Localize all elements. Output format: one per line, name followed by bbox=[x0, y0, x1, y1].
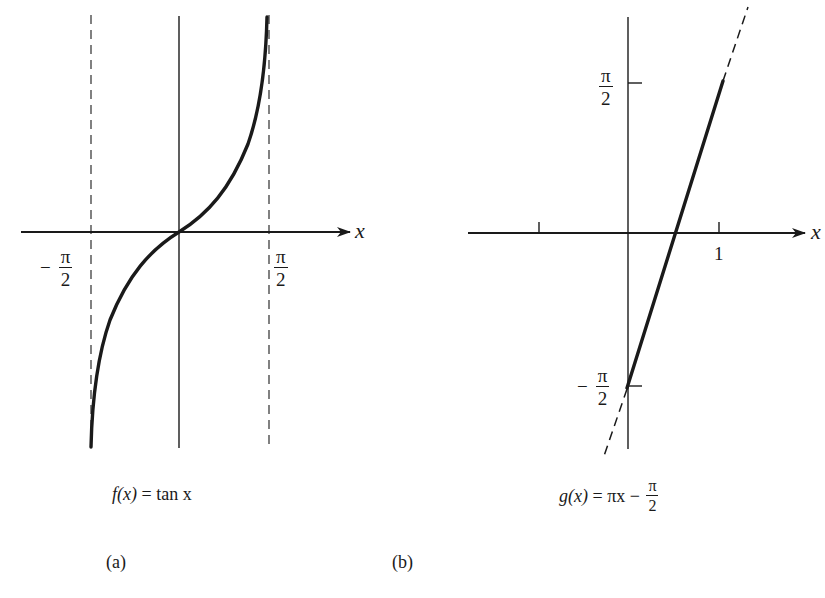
caption-equals: = bbox=[588, 486, 607, 507]
fraction-denominator: 2 bbox=[601, 87, 611, 108]
fraction-denominator: 2 bbox=[61, 268, 71, 289]
fraction-numerator: π bbox=[274, 247, 288, 268]
fraction-numerator: π bbox=[596, 366, 610, 387]
panel-b-line-dashed-upper bbox=[723, 7, 748, 81]
panel-b-tick-label-y-neg-half-pi: −π2 bbox=[577, 366, 609, 408]
fraction-pi-over-2: π2 bbox=[59, 247, 73, 289]
figure-canvas bbox=[0, 0, 825, 598]
panel-b-tick-label-y-pos-half-pi: π2 bbox=[599, 66, 613, 108]
caption-equals: = bbox=[137, 484, 156, 504]
caption-rhs: tan x bbox=[156, 484, 192, 504]
caption-lhs: f(x) bbox=[112, 484, 137, 504]
panel-a-graph bbox=[21, 15, 350, 448]
panel-a-caption: f(x) = tan x bbox=[112, 484, 192, 505]
panel-b-tag: (b) bbox=[392, 552, 413, 573]
fraction-pi-over-2: π2 bbox=[646, 478, 658, 514]
panel-b-tick-label-x-1: 1 bbox=[714, 243, 724, 265]
fraction-numerator: π bbox=[599, 66, 613, 87]
panel-a-tick-label-pos-half-pi: π2 bbox=[274, 247, 288, 289]
fraction-pi-over-2: π2 bbox=[596, 366, 610, 408]
fraction-denominator: 2 bbox=[648, 496, 656, 514]
panel-a-x-axis-label: x bbox=[355, 218, 365, 244]
fraction-numerator: π bbox=[646, 478, 658, 496]
panel-b-caption: g(x) = πx − π2 bbox=[559, 478, 658, 514]
panel-b-graph bbox=[468, 7, 805, 456]
fraction-pi-over-2: π2 bbox=[599, 66, 613, 108]
fraction-pi-over-2: π2 bbox=[274, 247, 288, 289]
caption-rhs: πx − bbox=[607, 486, 644, 507]
panel-b-line-solid bbox=[627, 81, 723, 388]
minus-sign: − bbox=[40, 257, 51, 278]
panel-b-x-axis-label: x bbox=[811, 219, 821, 245]
fraction-denominator: 2 bbox=[276, 268, 286, 289]
caption-lhs: g(x) bbox=[559, 486, 588, 507]
panel-a-tick-label-neg-half-pi: −π2 bbox=[40, 247, 72, 289]
panel-a-tag: (a) bbox=[106, 552, 126, 573]
minus-sign: − bbox=[577, 376, 588, 397]
fraction-numerator: π bbox=[59, 247, 73, 268]
fraction-denominator: 2 bbox=[598, 387, 608, 408]
